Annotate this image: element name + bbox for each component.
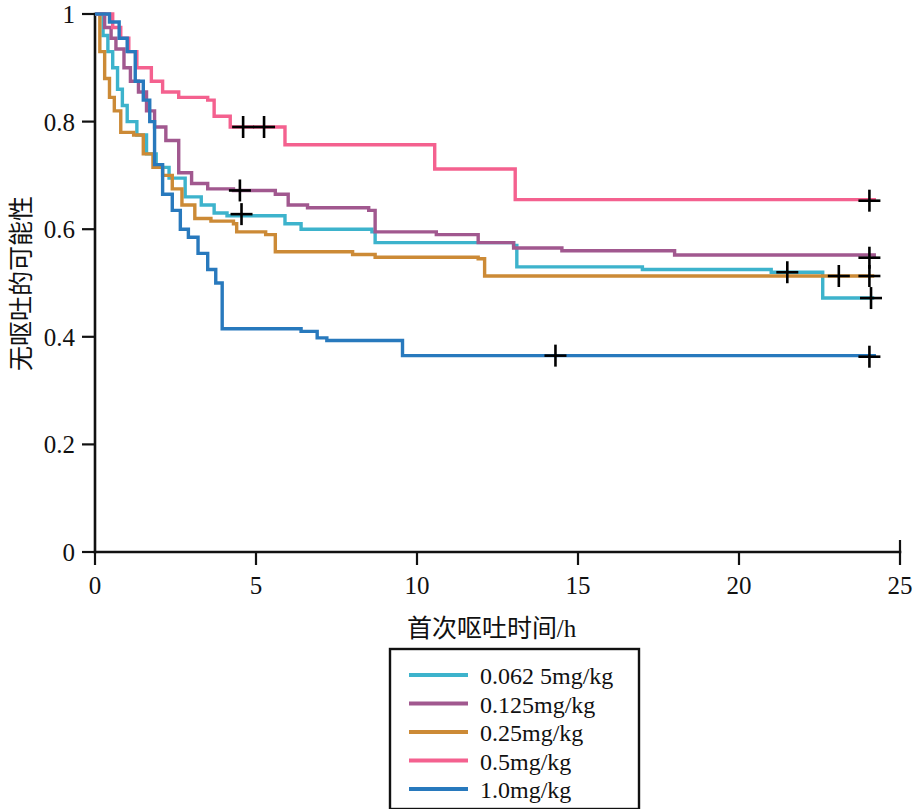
y-tick-label-1: 0.2 [44, 431, 75, 458]
censor-mark-2-1 [858, 265, 880, 287]
censor-mark-3-1 [253, 116, 275, 138]
y-tick-label-5: 1 [63, 1, 76, 28]
x-tick-label-0: 0 [89, 572, 102, 599]
x-tick-label-1: 5 [250, 572, 263, 599]
y-axis-title: 无呕吐的可能性 [8, 196, 35, 371]
legend-label-3: 0.5mg/kg [480, 749, 571, 775]
x-tick-label-3: 15 [566, 572, 591, 599]
legend-label-4: 1.0mg/kg [480, 777, 571, 803]
censor-mark-0-2 [860, 287, 882, 309]
y-tick-label-4: 0.8 [44, 109, 75, 136]
km-curve-2 [95, 14, 874, 276]
legend-label-1: 0.125mg/kg [480, 692, 595, 718]
x-tick-label-4: 20 [727, 572, 752, 599]
y-tick-label-0: 0 [63, 539, 76, 566]
legend-label-2: 0.25mg/kg [480, 720, 583, 746]
chart-legend: 0.062 5mg/kg0.125mg/kg0.25mg/kg0.5mg/kg1… [390, 649, 639, 809]
y-tick-label-3: 0.6 [44, 216, 75, 243]
censor-mark-4-0 [544, 345, 566, 367]
legend-label-0: 0.062 5mg/kg [480, 663, 613, 689]
censor-mark-3-2 [858, 190, 880, 212]
y-tick-label-2: 0.4 [44, 324, 76, 351]
x-tick-label-2: 10 [405, 572, 430, 599]
kaplan-meier-figure: 00.20.40.60.810510152025 首次呕吐时间/h无呕吐的可能性… [0, 0, 923, 809]
censor-mark-2-0 [828, 265, 850, 287]
censor-mark-3-0 [232, 116, 254, 138]
km-curve-4 [95, 14, 874, 357]
censor-mark-1-0 [229, 179, 251, 201]
censor-mark-0-1 [776, 261, 798, 283]
censor-mark-4-1 [858, 346, 880, 368]
chart-curves [95, 14, 874, 357]
x-axis-title: 首次呕吐时间/h [407, 615, 577, 642]
km-curve-3 [95, 14, 874, 201]
x-tick-label-5: 25 [888, 572, 913, 599]
survival-chart-svg: 00.20.40.60.810510152025 首次呕吐时间/h无呕吐的可能性… [0, 0, 923, 809]
censor-marks [229, 116, 882, 368]
